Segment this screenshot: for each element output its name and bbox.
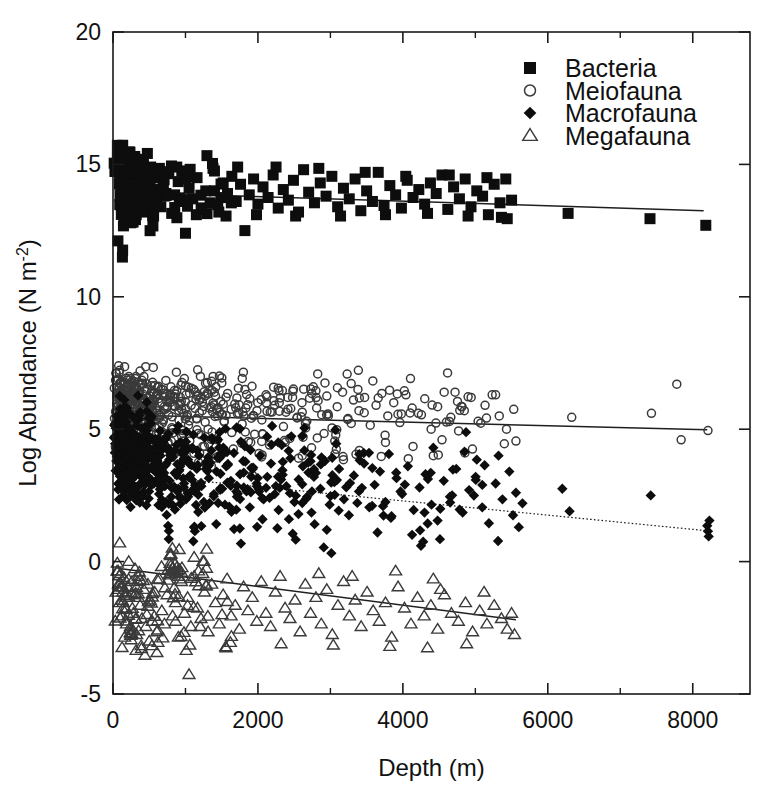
point-megafauna: [188, 552, 200, 562]
point-meiofauna: [404, 455, 412, 463]
point-bacteria: [148, 211, 159, 222]
point-macrofauna: [306, 507, 316, 517]
point-meiofauna: [440, 388, 448, 396]
point-megafauna: [461, 638, 473, 648]
point-megafauna: [321, 584, 333, 594]
point-macrofauna: [334, 464, 344, 474]
point-meiofauna: [355, 407, 363, 415]
point-bacteria: [258, 181, 269, 192]
point-macrofauna: [372, 527, 382, 537]
point-megafauna: [361, 586, 373, 596]
point-bacteria: [196, 202, 207, 213]
point-bacteria: [481, 172, 492, 183]
point-macrofauna: [484, 518, 494, 528]
point-meiofauna: [481, 401, 489, 409]
point-megafauna: [233, 624, 245, 634]
point-bacteria: [380, 209, 391, 220]
point-macrofauna: [391, 468, 401, 478]
point-meiofauna: [366, 421, 374, 429]
point-meiofauna: [172, 368, 180, 376]
point-macrofauna: [517, 498, 527, 508]
point-meiofauna: [361, 393, 369, 401]
point-macrofauna: [188, 536, 198, 546]
point-bacteria: [422, 208, 433, 219]
point-meiofauna: [444, 369, 452, 377]
point-meiofauna: [258, 416, 266, 424]
point-meiofauna: [279, 423, 287, 431]
point-bacteria: [313, 163, 324, 174]
point-macrofauna: [293, 509, 303, 519]
point-meiofauna: [482, 414, 490, 422]
x-tick-label: 0: [107, 707, 120, 733]
point-bacteria: [283, 195, 294, 206]
point-meiofauna: [406, 375, 414, 383]
point-bacteria: [231, 196, 242, 207]
point-meiofauna: [512, 437, 520, 445]
point-macrofauna: [236, 538, 246, 548]
point-macrofauna: [322, 525, 332, 535]
point-meiofauna: [323, 392, 331, 400]
point-megafauna: [386, 631, 398, 641]
point-macrofauna: [479, 460, 489, 470]
point-bacteria: [146, 185, 157, 196]
point-megafauna: [478, 586, 490, 596]
point-macrofauna: [472, 454, 482, 464]
point-megafauna: [242, 605, 254, 615]
point-meiofauna: [194, 366, 202, 374]
point-bacteria: [460, 173, 471, 184]
point-bacteria: [396, 203, 407, 214]
point-bacteria: [563, 208, 574, 219]
point-meiofauna: [647, 409, 655, 417]
point-megafauna: [327, 639, 339, 649]
point-meiofauna: [406, 409, 414, 417]
point-meiofauna: [347, 380, 355, 388]
point-meiofauna: [503, 425, 511, 433]
point-megafauna: [432, 624, 444, 634]
point-meiofauna: [314, 370, 322, 378]
point-bacteria: [201, 150, 212, 161]
point-megafauna: [274, 571, 286, 581]
point-macrofauna: [324, 499, 334, 509]
point-bacteria: [116, 195, 127, 206]
point-bacteria: [506, 195, 517, 206]
point-macrofauna: [408, 505, 418, 515]
point-macrofauna: [319, 542, 329, 552]
point-megafauna: [367, 605, 379, 615]
legend-item-megafauna[interactable]: Megafauna: [523, 122, 690, 150]
point-bacteria: [496, 212, 507, 223]
legend-marker-filled-square: [524, 62, 536, 74]
point-bacteria: [315, 177, 326, 188]
point-meiofauna: [434, 403, 442, 411]
legend-marker-open-triangle: [523, 129, 538, 141]
y-tick-label: 10: [75, 284, 101, 310]
point-bacteria: [361, 185, 372, 196]
x-axis-title: Depth (m): [378, 754, 485, 781]
point-bacteria: [248, 173, 259, 184]
point-bacteria: [208, 163, 219, 174]
point-meiofauna: [495, 412, 503, 420]
point-bacteria: [181, 195, 192, 206]
point-megafauna: [488, 600, 500, 610]
point-megafauna: [412, 592, 424, 602]
point-meiofauna: [510, 405, 518, 413]
point-macrofauna: [272, 523, 282, 533]
point-megafauna: [460, 597, 472, 607]
series-meiofauna: [110, 362, 712, 479]
point-bacteria: [112, 235, 123, 246]
point-megafauna: [399, 602, 411, 612]
point-bacteria: [212, 199, 223, 210]
point-bacteria: [483, 209, 494, 220]
point-bacteria: [252, 199, 263, 210]
point-megafauna: [299, 579, 311, 589]
point-macrofauna: [284, 514, 294, 524]
point-macrofauna: [557, 484, 567, 494]
point-macrofauna: [415, 525, 425, 535]
point-meiofauna: [421, 395, 429, 403]
point-megafauna: [373, 616, 385, 626]
point-bacteria: [251, 209, 262, 220]
point-macrofauna: [284, 446, 294, 456]
point-meiofauna: [313, 434, 321, 442]
y-tick-label: -5: [81, 681, 101, 707]
point-megafauna: [422, 642, 434, 652]
point-macrofauna: [514, 522, 524, 532]
